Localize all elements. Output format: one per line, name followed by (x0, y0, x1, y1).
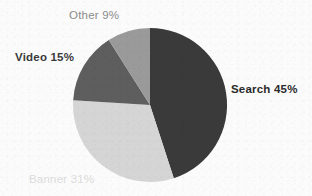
pie-chart: Search 45% Video 15% Other 9% Banner 31% (0, 0, 312, 196)
pie-chart-canvas (0, 0, 312, 196)
pie-label-banner: Banner 31% (29, 174, 94, 186)
pie-label-other: Other 9% (69, 10, 119, 22)
pie-label-search: Search 45% (231, 84, 298, 96)
pie-label-video: Video 15% (15, 52, 74, 64)
